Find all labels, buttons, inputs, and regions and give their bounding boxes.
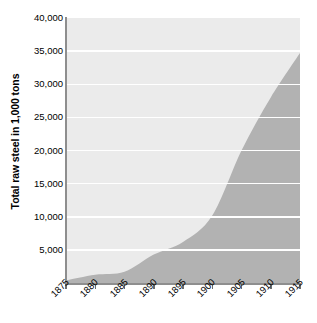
y-axis-tick-label: 25,000	[20, 112, 63, 122]
y-axis-tick-label: 15,000	[20, 179, 63, 189]
y-axis-tick-label: 20,000	[20, 146, 63, 156]
gridline	[66, 84, 300, 86]
gridline	[66, 117, 300, 119]
y-axis-line	[65, 17, 67, 285]
y-axis-tick-label: 10,000	[20, 212, 63, 222]
gridline	[66, 216, 300, 218]
y-axis-tick-label: 5,000	[20, 245, 63, 255]
y-axis-tick-label: 40,000	[20, 13, 63, 23]
y-axis-tick-label: 30,000	[20, 79, 63, 89]
gridline	[66, 249, 300, 251]
gridline	[66, 183, 300, 185]
gridline	[66, 50, 300, 52]
gridline	[66, 150, 300, 152]
area-chart: Total raw steel in 1,000 tons 5,00010,00…	[0, 0, 317, 323]
plot-area	[66, 18, 300, 283]
y-axis-tick-label: 35,000	[20, 46, 63, 56]
y-axis-tick-labels: 5,00010,00015,00020,00025,00030,00035,00…	[20, 0, 63, 323]
